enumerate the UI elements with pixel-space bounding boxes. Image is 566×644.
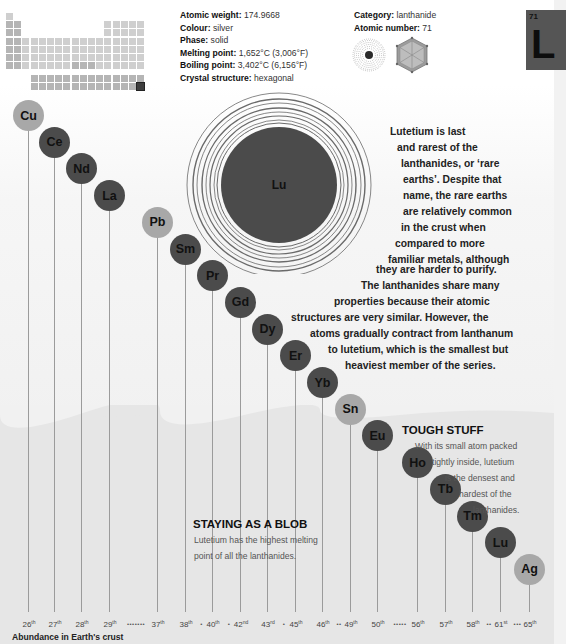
element-bubble-nd: Nd	[66, 153, 97, 184]
story-line: point of all the lanthanides.	[194, 551, 296, 561]
rank-gap-marker: •	[228, 619, 231, 630]
story-line: hardest of the	[459, 489, 512, 499]
element-bubble-pr: Pr	[197, 260, 228, 291]
element-bubble-lu: Lu	[485, 527, 516, 558]
rank-label-yb: 46th	[316, 619, 329, 629]
stalk-dy	[267, 329, 268, 612]
rank-gap-marker: •	[200, 619, 203, 630]
element-bubble-dy: Dy	[252, 314, 283, 345]
stalk-pr	[212, 275, 213, 612]
element-bubble-sm: Sm	[170, 234, 201, 265]
rank-label-dy: 43rd	[261, 619, 274, 629]
rank-gap-marker: •••	[514, 619, 522, 630]
element-bubble-ag: Ag	[514, 554, 545, 585]
element-bubble-ce: Ce	[39, 127, 70, 158]
story-line: tightly inside, lutetium	[432, 457, 514, 467]
rank-label-ce: 27th	[48, 619, 61, 629]
story-line: Lutetium has the highest melting	[194, 535, 318, 545]
element-bubble-yb: Yb	[307, 367, 338, 398]
stalk-sm	[185, 249, 186, 613]
stalk-er	[295, 355, 296, 612]
story-heading: TOUGH STUFF	[402, 424, 484, 436]
rank-label-nd: 28th	[75, 619, 88, 629]
rank-label-er: 45th	[289, 619, 302, 629]
stalk-ho	[417, 462, 418, 612]
chart-axis-title: Abundance in Earth's crust	[12, 632, 123, 642]
rank-label-sm: 38th	[179, 619, 192, 629]
element-bubble-cu: Cu	[13, 100, 44, 131]
rank-label-la: 29th	[103, 619, 116, 629]
stalk-nd	[81, 168, 82, 612]
stalk-gd	[240, 302, 241, 612]
rank-label-ag: 65th	[523, 619, 536, 629]
stalk-eu	[377, 435, 378, 612]
stalk-tb	[445, 489, 446, 612]
element-bubble-ho: Ho	[402, 447, 433, 478]
stalk-ce	[54, 142, 55, 612]
rank-label-cu: 26th	[22, 619, 35, 629]
rank-gap-marker: ••	[486, 619, 491, 630]
rank-label-lu: 61st	[495, 619, 508, 629]
rank-label-pb: 37th	[151, 619, 164, 629]
element-bubble-eu: Eu	[362, 420, 393, 451]
stalk-pb	[157, 222, 158, 612]
rank-gap-marker: ••	[336, 619, 341, 630]
story-heading: STAYING AS A BLOB	[193, 518, 307, 530]
rank-label-tb: 57th	[439, 619, 452, 629]
stalk-la	[109, 195, 110, 612]
rank-label-gd: 42nd	[234, 619, 248, 629]
element-bubble-sn: Sn	[335, 394, 366, 425]
rank-label-pr: 40th	[206, 619, 219, 629]
stalk-cu	[28, 115, 29, 612]
story-line: With its small atom packed	[415, 441, 517, 451]
element-bubble-gd: Gd	[225, 287, 256, 318]
rank-label-ho: 56th	[411, 619, 424, 629]
story-line: lanthanides.	[473, 505, 519, 515]
rank-gap-marker: •	[283, 619, 286, 630]
element-bubble-la: La	[94, 180, 125, 211]
rank-label-tm: 58th	[466, 619, 479, 629]
rank-label-sn: 49th	[344, 619, 357, 629]
rank-gap-marker: •••••••	[127, 619, 145, 630]
rank-label-eu: 50th	[371, 619, 384, 629]
stalk-sn	[350, 409, 351, 612]
element-bubble-er: Er	[280, 340, 311, 371]
element-bubble-pb: Pb	[142, 207, 173, 238]
story-line: is the densest and	[445, 473, 515, 483]
rank-gap-marker: •••••	[393, 619, 406, 630]
stalk-yb	[322, 382, 323, 612]
